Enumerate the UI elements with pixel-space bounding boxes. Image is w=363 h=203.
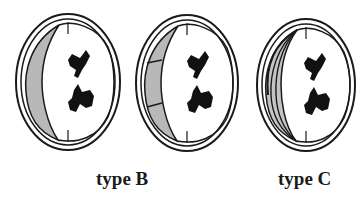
panel-3-figure [257, 19, 355, 151]
panel-2-label: type B [96, 169, 148, 188]
panel-3-label: type C [278, 169, 331, 188]
diagram-canvas: type B type C [0, 0, 363, 203]
panel-2-figure [136, 15, 238, 151]
panel-1-figure [16, 14, 120, 150]
